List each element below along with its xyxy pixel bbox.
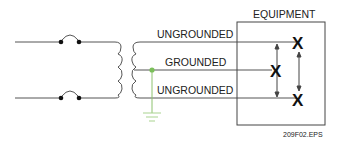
load-mark-middle: X <box>270 62 282 81</box>
wire-label-ungrounded-top: UNGROUNDED <box>157 28 234 40</box>
switch-contacts-top <box>59 40 82 45</box>
transformer-primary-coil <box>115 42 122 98</box>
ground-junction-dot <box>149 67 154 72</box>
switch-contacts-bottom <box>59 96 82 101</box>
wire-label-ungrounded-bottom: UNGROUNDED <box>157 84 234 96</box>
primary-top-circuit <box>15 35 115 42</box>
wiring-diagram: UNGROUNDED GROUNDED UNGROUNDED EQUIPMENT… <box>0 0 337 145</box>
figure-id: 209F02.EPS <box>283 131 323 138</box>
ground-symbol-icon <box>143 113 161 121</box>
primary-bottom-circuit <box>15 91 115 98</box>
measurement-arrow-line-to-line <box>297 52 301 91</box>
wire-label-grounded: GROUNDED <box>165 56 227 68</box>
load-mark-top: X <box>292 34 304 53</box>
load-mark-bottom: X <box>292 91 304 110</box>
equipment-label: EQUIPMENT <box>253 8 316 20</box>
